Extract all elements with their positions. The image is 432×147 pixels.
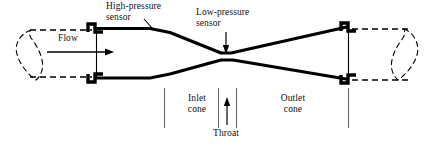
- label-throat: Throat: [198, 128, 254, 139]
- throat-arrow-icon: [224, 97, 230, 125]
- label-outlet-cone: Outlet cone: [268, 93, 318, 114]
- label-flow: Flow: [58, 33, 78, 44]
- right-flange-icon: [341, 23, 356, 83]
- venturi-bottom-wall: [95, 60, 349, 80]
- right-break-symbol-icon: [391, 29, 417, 80]
- low-pressure-sensor-arrow-icon: [223, 32, 229, 54]
- left-flange-icon: [88, 24, 103, 82]
- venturi-top-wall: [95, 27, 349, 54]
- flow-arrow-icon: [47, 49, 114, 56]
- right-pipe-continuation: [352, 29, 408, 80]
- venturi-meter-diagram: High-pressure sensor Low-pressure sensor…: [0, 0, 432, 147]
- label-high-pressure-sensor: High-pressure sensor: [106, 1, 161, 22]
- label-low-pressure-sensor: Low-pressure sensor: [196, 7, 249, 28]
- label-inlet-cone: Inlet cone: [174, 93, 220, 114]
- left-break-symbol-icon: [16, 30, 42, 80]
